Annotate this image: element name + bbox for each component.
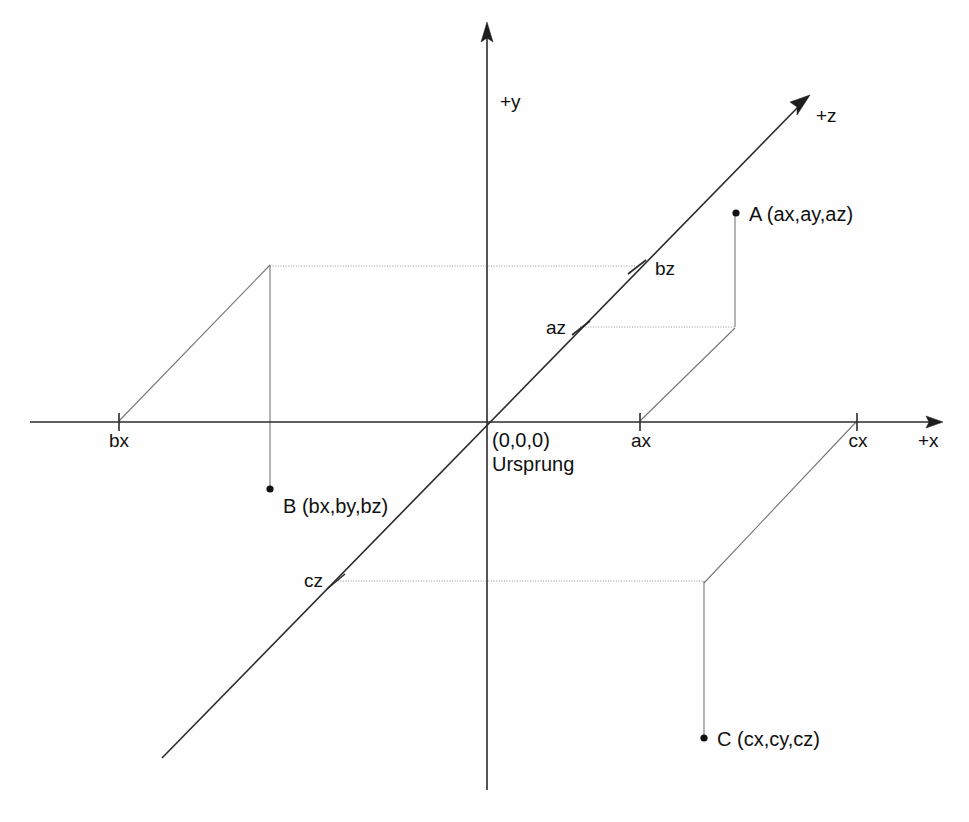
tick-label-cz: cz: [304, 570, 323, 591]
point-label-b: B (bx,by,bz): [283, 495, 388, 517]
y-axis-label: +y: [500, 91, 521, 112]
x-axis-label: +x: [918, 430, 939, 451]
point-dot-a: [732, 209, 739, 216]
tick-label-bx: bx: [109, 430, 130, 451]
origin-coordinates-label: (0,0,0): [492, 429, 550, 451]
tick-label-bz: bz: [655, 258, 675, 279]
construction-group-a: [580, 214, 735, 421]
c-diagonal-cx-to-corner: [704, 421, 857, 583]
b-diagonal-bx-to-corner: [119, 265, 270, 421]
tick-label-cx: cx: [849, 430, 869, 451]
z-axis-line: [162, 103, 802, 758]
z-axis-group: [162, 95, 810, 758]
tick-cz: [327, 574, 345, 589]
construction-group-c: [335, 421, 857, 738]
tick-az: [572, 321, 590, 335]
point-dot-c: [700, 734, 707, 741]
coordinate-diagram: +y +z +x bx ax cx bz az cz (0,0,0) Urspr…: [0, 0, 969, 822]
origin-name-label: Ursprung: [492, 453, 574, 475]
z-axis-label: +z: [816, 105, 837, 126]
point-dot-b: [266, 485, 273, 492]
coordinate-system-svg: +y +z +x bx ax cx bz az cz (0,0,0) Urspr…: [0, 0, 969, 822]
a-diagonal-ax-to-corner: [640, 328, 735, 421]
tick-label-az: az: [546, 317, 566, 338]
tick-label-ax: ax: [631, 430, 652, 451]
point-label-c: C (cx,cy,cz): [717, 728, 820, 750]
y-axis-group: [481, 22, 493, 790]
point-label-a: A (ax,ay,az): [749, 203, 853, 225]
